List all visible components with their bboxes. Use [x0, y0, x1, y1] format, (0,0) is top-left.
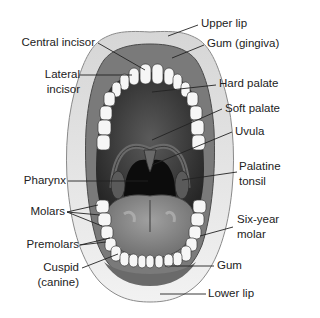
label-gum: Gum [217, 259, 242, 272]
label-premolars: Premolars [27, 238, 79, 251]
label-six-year-molar-1: Six-year [237, 213, 279, 226]
label-uvula: Uvula [235, 125, 264, 138]
label-pharynx: Pharynx [24, 174, 66, 187]
label-hard-palate: Hard palate [219, 77, 278, 90]
label-soft-palate: Soft palate [225, 102, 280, 115]
label-cuspid-2: (canine) [37, 276, 79, 289]
label-palatine-tonsil-1: Palatine [239, 160, 281, 173]
label-upper-lip: Upper lip [201, 17, 247, 30]
label-lateral-incisor-1: Lateral [45, 68, 80, 81]
left-tonsil [111, 171, 125, 199]
label-molars: Molars [30, 205, 65, 218]
label-palatine-tonsil-2: tonsil [239, 175, 266, 188]
label-lateral-incisor-2: incisor [47, 83, 80, 96]
label-six-year-molar-2: molar [237, 228, 266, 241]
label-central-incisor: Central incisor [22, 36, 96, 49]
right-tonsil [175, 171, 189, 199]
label-cuspid-1: Cuspid [43, 261, 79, 274]
label-gum-gingiva: Gum (gingiva) [207, 37, 279, 50]
label-lower-lip: Lower lip [208, 287, 254, 300]
